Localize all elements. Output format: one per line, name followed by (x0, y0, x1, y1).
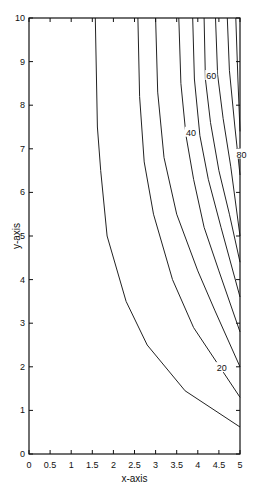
x-tick-label: 2.5 (128, 460, 141, 470)
axis-ticks: 00.511.522.533.544.55012345678910 (15, 13, 243, 470)
y-tick-label: 8 (20, 100, 25, 110)
contour-chart: 00.511.522.533.544.55012345678910 204060… (0, 0, 256, 500)
y-tick-label: 1 (20, 405, 25, 415)
y-tick-label: 0 (20, 449, 25, 459)
y-tick-label: 4 (20, 275, 25, 285)
x-axis-label: x-axis (121, 473, 147, 484)
contour-line-90 (236, 18, 240, 131)
contour-line-60 (204, 18, 240, 262)
x-tick-label: 4 (195, 460, 200, 470)
y-tick-label: 2 (20, 362, 25, 372)
x-tick-label: 3.5 (170, 460, 183, 470)
contour-label: 40 (186, 128, 196, 138)
contour-line-40 (179, 18, 240, 332)
plot-frame (29, 18, 240, 454)
contour-line-70 (216, 18, 241, 236)
x-tick-label: 0.5 (44, 460, 57, 470)
x-tick-label: 1 (69, 460, 74, 470)
contour-line-20 (138, 18, 240, 397)
x-tick-label: 3 (153, 460, 158, 470)
contour-line-30 (156, 18, 240, 367)
contour-label: 60 (206, 71, 216, 81)
y-axis-label: y-axis (11, 223, 22, 249)
y-tick-label: 3 (20, 318, 25, 328)
x-tick-label: 4.5 (213, 460, 226, 470)
contour-label: 80 (237, 150, 247, 160)
y-tick-label: 6 (20, 187, 25, 197)
x-tick-label: 2 (111, 460, 116, 470)
y-tick-label: 9 (20, 57, 25, 67)
contour-label: 20 (217, 363, 227, 373)
x-tick-label: 1.5 (86, 460, 99, 470)
x-tick-label: 0 (26, 460, 31, 470)
y-tick-label: 10 (15, 13, 25, 23)
y-tick-label: 7 (20, 144, 25, 154)
x-tick-label: 5 (237, 460, 242, 470)
